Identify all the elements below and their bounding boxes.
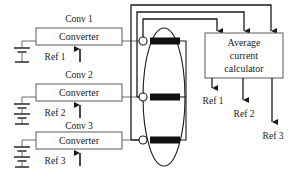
load-bar-2 [150,94,180,101]
converter-3-ref-label: Ref 3 [45,156,66,166]
converter-2-label: Converter [59,87,100,98]
converter-2-tag: Conv 2 [65,70,93,80]
sense-node-3 [139,136,147,144]
output-label-2: Ref 2 [234,109,255,119]
load-bar-1 [150,38,180,45]
converter-3-tag: Conv 3 [65,121,93,131]
sense-node-2 [139,93,147,101]
converter-1-box[interactable]: Converter [36,28,122,45]
converter-1-tag: Conv 1 [65,14,93,24]
converter-2-ref-label: Ref 2 [45,108,66,118]
diagram-canvas: Conv 1 Converter Ref 1 Conv 2 Converter … [0,0,289,184]
converter-3-box[interactable]: Converter [36,132,122,149]
converter-2-box[interactable]: Converter [36,84,122,101]
converter-3-label: Converter [59,135,100,146]
power-system-diagram: Conv 1 Converter Ref 1 Conv 2 Converter … [0,0,289,184]
converter-1-label: Converter [59,31,100,42]
output-label-1: Ref 1 [203,96,224,106]
average-current-calculator-box[interactable]: Average current calculator [205,33,283,78]
sense-node-1 [139,37,147,45]
calculator-label-line2: current [230,50,259,61]
calculator-label-line3: calculator [224,63,264,74]
calculator-label-line1: Average [227,37,261,48]
converter-1-ref-label: Ref 1 [45,52,66,62]
load-bar-3 [150,137,180,144]
output-label-3: Ref 3 [263,131,284,141]
